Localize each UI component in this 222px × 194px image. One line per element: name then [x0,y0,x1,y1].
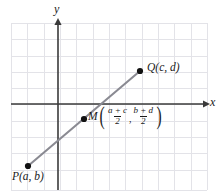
fraction-y-denominator: 2 [140,116,147,127]
x-axis-label: x [210,96,215,108]
fraction-y-numerator: b + d [133,106,155,116]
close-paren: ) [156,106,161,127]
midpoint-name: M [88,111,98,123]
fraction-x-denominator: 2 [114,116,121,127]
open-paren: ( [100,106,105,127]
point-q-label: Q(c, d) [147,62,180,74]
point-p-label: P(a, b) [12,171,44,183]
coord-comma: , [129,114,132,127]
y-axis-label: y [54,3,59,15]
fraction-x-numerator: a + c [107,106,128,116]
fraction-x: a + c 2 [107,106,128,127]
point-m-label: M ( a + c 2 , b + d 2 ) [88,106,163,127]
point-p [25,163,31,169]
point-m [81,116,87,122]
point-q [137,68,143,74]
figure-canvas [0,0,222,194]
midpoint-formula-figure: y x P(a, b) Q(c, d) M ( a + c 2 , b + d … [0,0,222,194]
fraction-y: b + d 2 [133,106,155,127]
